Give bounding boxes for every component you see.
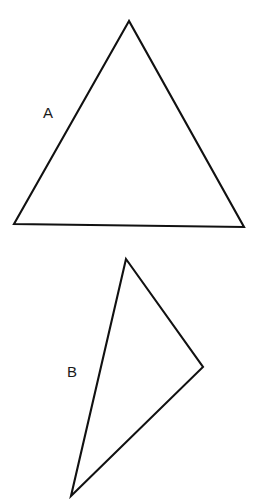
triangle-a-shape [14,21,244,227]
figure-svg [0,0,253,501]
triangle-b-shape [71,259,203,496]
figure-canvas: A B [0,0,253,501]
triangle-a-label: A [43,105,53,120]
triangle-b-label: B [67,364,77,379]
